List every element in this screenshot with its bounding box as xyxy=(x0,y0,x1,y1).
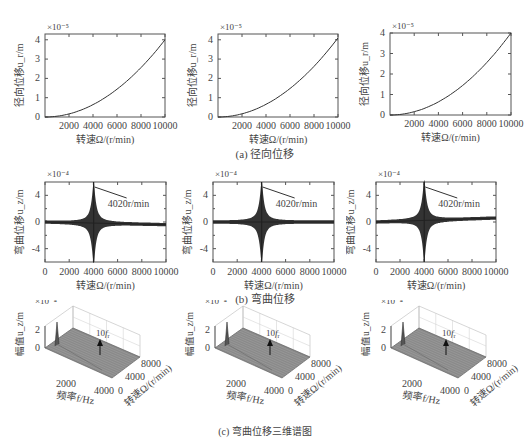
svg-text:×10⁻⁴: ×10⁻⁴ xyxy=(205,300,227,306)
svg-text:10000: 10000 xyxy=(322,266,347,277)
svg-text:4000: 4000 xyxy=(440,385,460,396)
svg-text:0: 0 xyxy=(203,216,208,227)
svg-text:2000: 2000 xyxy=(227,266,247,277)
svg-text:4000: 4000 xyxy=(83,266,103,277)
svg-text:4000: 4000 xyxy=(414,266,434,277)
svg-text:幅值u_z/m: 幅值u_z/m xyxy=(360,312,371,356)
svg-text:2000: 2000 xyxy=(59,266,79,277)
bending-displacement-chart-2: ×10⁻⁴40-402000400060008000100004020r/min… xyxy=(180,0,360,304)
svg-text:4000: 4000 xyxy=(94,385,114,396)
svg-text:0: 0 xyxy=(43,266,48,277)
spectrum-3d-chart-2: 10fr02×10⁻⁴幅值u_z/m20004000频率f/Hz04000800… xyxy=(170,300,350,424)
svg-text:6000: 6000 xyxy=(108,266,128,277)
svg-text:幅值u_z/m: 幅值u_z/m xyxy=(184,312,195,356)
svg-text:×10⁻⁴: ×10⁻⁴ xyxy=(35,300,57,306)
svg-text:0: 0 xyxy=(288,385,293,396)
svg-text:-4: -4 xyxy=(200,243,208,254)
svg-text:0: 0 xyxy=(118,385,123,396)
svg-text:0: 0 xyxy=(366,216,371,227)
svg-text:幅值u_z/m: 幅值u_z/m xyxy=(14,312,25,356)
svg-text:0: 0 xyxy=(211,266,216,277)
svg-text:弯曲位移u_z/m: 弯曲位移u_z/m xyxy=(181,189,193,254)
svg-text:频率f/Hz: 频率f/Hz xyxy=(56,388,96,406)
svg-text:频率f/Hz: 频率f/Hz xyxy=(402,388,442,406)
svg-text:×10⁻⁴: ×10⁻⁴ xyxy=(47,169,69,179)
svg-text:弯曲位移u_z/m: 弯曲位移u_z/m xyxy=(346,189,356,254)
svg-text:8000: 8000 xyxy=(462,266,482,277)
svg-text:10fr: 10fr xyxy=(442,328,456,339)
svg-text:-4: -4 xyxy=(363,243,371,254)
svg-text:6000: 6000 xyxy=(276,266,296,277)
svg-text:4000: 4000 xyxy=(471,371,491,382)
svg-text:4: 4 xyxy=(366,189,371,200)
svg-text:频率f/Hz: 频率f/Hz xyxy=(226,388,266,406)
svg-text:8000: 8000 xyxy=(487,358,507,369)
svg-text:10fr: 10fr xyxy=(96,328,110,339)
svg-text:2: 2 xyxy=(381,324,386,335)
caption-c: (c) 弯曲位移三维谱图 xyxy=(210,423,320,438)
svg-text:8000: 8000 xyxy=(300,266,320,277)
svg-text:4000: 4000 xyxy=(295,371,315,382)
svg-text:4000: 4000 xyxy=(264,385,284,396)
svg-text:0: 0 xyxy=(35,342,40,353)
svg-text:-4: -4 xyxy=(32,243,40,254)
svg-text:弯曲位移u_z/m: 弯曲位移u_z/m xyxy=(13,189,25,254)
svg-text:2000: 2000 xyxy=(226,378,246,389)
svg-text:10000: 10000 xyxy=(484,266,509,277)
svg-text:2000: 2000 xyxy=(390,266,410,277)
svg-text:4020r/min: 4020r/min xyxy=(276,198,318,209)
spectrum-3d-chart-3: 10fr02×10⁻⁴幅值u_z/m20004000频率f/Hz04000800… xyxy=(346,300,526,424)
svg-text:2: 2 xyxy=(35,324,40,335)
svg-text:0: 0 xyxy=(374,266,379,277)
svg-text:10000: 10000 xyxy=(154,266,179,277)
svg-text:8000: 8000 xyxy=(141,358,161,369)
svg-text:4000: 4000 xyxy=(125,371,145,382)
svg-text:4020r/min: 4020r/min xyxy=(438,198,480,209)
bending-displacement-chart-1: ×10⁻⁴40-402000400060008000100004020r/min… xyxy=(0,0,180,304)
svg-text:4: 4 xyxy=(35,189,40,200)
svg-text:×10⁻⁴: ×10⁻⁴ xyxy=(381,300,403,306)
svg-text:0: 0 xyxy=(381,342,386,353)
spectrum-3d-chart-1: 10fr02×10⁻⁴幅值u_z/m20004000频率f/Hz04000800… xyxy=(0,300,180,424)
svg-text:×10⁻⁴: ×10⁻⁴ xyxy=(215,169,237,179)
svg-text:2000: 2000 xyxy=(402,378,422,389)
svg-text:2: 2 xyxy=(205,324,210,335)
svg-text:2000: 2000 xyxy=(56,378,76,389)
svg-text:转速Ω/(r/min): 转速Ω/(r/min) xyxy=(76,279,135,292)
bending-displacement-chart-3: ×10⁻⁴40-402000400060008000100004020r/min… xyxy=(346,0,526,304)
svg-text:0: 0 xyxy=(35,216,40,227)
svg-text:×10⁻⁴: ×10⁻⁴ xyxy=(378,169,400,179)
svg-text:4020r/min: 4020r/min xyxy=(108,198,150,209)
svg-text:0: 0 xyxy=(205,342,210,353)
svg-text:8000: 8000 xyxy=(132,266,152,277)
svg-text:8000: 8000 xyxy=(311,358,331,369)
svg-text:4: 4 xyxy=(203,189,208,200)
svg-text:10fr: 10fr xyxy=(266,328,280,339)
svg-text:转速Ω/(r/min): 转速Ω/(r/min) xyxy=(407,279,466,292)
svg-text:4000: 4000 xyxy=(251,266,271,277)
svg-text:0: 0 xyxy=(464,385,469,396)
svg-text:6000: 6000 xyxy=(438,266,458,277)
